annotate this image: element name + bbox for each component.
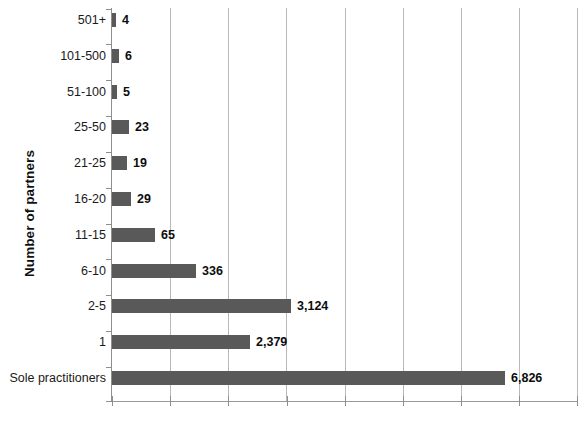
bar-row: 101-5006 [0, 49, 584, 82]
bar-row: 6-10336 [0, 264, 584, 297]
category-label: 11-15 [0, 228, 106, 242]
category-label: 6-10 [0, 264, 106, 278]
bar-row: 16-2029 [0, 192, 584, 225]
bar-row: 501+4 [0, 13, 584, 46]
category-label: 101-500 [0, 49, 106, 63]
bar [112, 49, 119, 63]
bar-value-label: 4 [122, 13, 129, 27]
bar [112, 335, 250, 349]
bar [112, 13, 116, 27]
bar [112, 371, 505, 385]
category-label: 25-50 [0, 120, 106, 134]
bar-value-label: 19 [133, 156, 147, 170]
bar-value-label: 2,379 [256, 335, 287, 349]
category-label: 2-5 [0, 299, 106, 313]
bar [112, 192, 131, 206]
bar-value-label: 3,124 [297, 299, 328, 313]
category-label: 21-25 [0, 156, 106, 170]
plot-wrapper: 501+4101-500651-100525-502321-251916-202… [0, 0, 584, 426]
bar-row: 2-53,124 [0, 299, 584, 332]
bar-value-label: 6 [125, 49, 132, 63]
bar-row: 12,379 [0, 335, 584, 368]
bar-row: Sole practitioners6,826 [0, 371, 584, 404]
bar-row: 25-5023 [0, 120, 584, 153]
bar-value-label: 6,826 [511, 371, 542, 385]
bar-value-label: 5 [123, 85, 130, 99]
bar-value-label: 336 [202, 264, 223, 278]
bar [112, 120, 129, 134]
bar [112, 264, 196, 278]
bar-value-label: 65 [161, 228, 175, 242]
category-label: 51-100 [0, 85, 106, 99]
bar-value-label: 29 [137, 192, 151, 206]
bar-row: 21-2519 [0, 156, 584, 189]
category-label: 501+ [0, 13, 106, 27]
category-label: Sole practitioners [0, 371, 106, 385]
bar-row: 11-1565 [0, 228, 584, 261]
y-axis-tick [106, 9, 112, 10]
bar-value-label: 23 [135, 120, 149, 134]
bar [112, 156, 127, 170]
bar [112, 85, 117, 99]
category-label: 16-20 [0, 192, 106, 206]
bar [112, 228, 155, 242]
bar-chart: Number of partners [0, 0, 584, 426]
bar [112, 299, 291, 313]
bar-row: 51-1005 [0, 85, 584, 118]
category-label: 1 [0, 335, 106, 349]
